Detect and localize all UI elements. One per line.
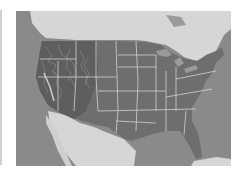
left-edge-line (0, 10, 2, 165)
us-relief-map (16, 11, 231, 166)
map-graphic (16, 11, 231, 166)
